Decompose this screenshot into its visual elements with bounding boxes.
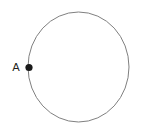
figure-canvas: A — [0, 0, 146, 129]
figure-background — [0, 0, 146, 129]
geometry-figure: A — [0, 0, 146, 129]
point-label-a: A — [12, 61, 20, 74]
point-marker-a — [25, 64, 32, 71]
